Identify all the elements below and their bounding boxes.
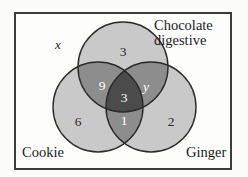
region-value-ginger-only: 2 bbox=[168, 114, 175, 130]
region-value-all-three: 3 bbox=[121, 90, 128, 106]
diagram-canvas: x Chocolate digestive Cookie Ginger 3 6 … bbox=[0, 0, 248, 177]
set-label-cookie: Cookie bbox=[22, 145, 64, 160]
region-value-chocolate-ginger: y bbox=[143, 79, 149, 95]
region-value-cookie-only: 6 bbox=[75, 114, 82, 130]
region-value-cookie-ginger: 1 bbox=[121, 113, 128, 129]
region-value-cookie-chocolate: 9 bbox=[99, 78, 106, 94]
universal-set-label: x bbox=[55, 38, 61, 52]
region-value-chocolate-only: 3 bbox=[120, 44, 127, 60]
set-label-chocolate-digestive: Chocolate digestive bbox=[154, 18, 213, 48]
set-label-ginger: Ginger bbox=[186, 145, 226, 160]
